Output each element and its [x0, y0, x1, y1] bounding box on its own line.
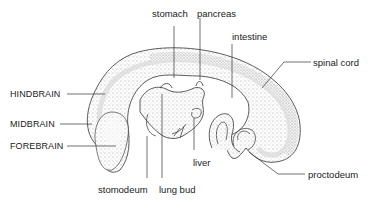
label-hindbrain: HINDBRAIN: [10, 89, 60, 100]
pancreas-shape: [196, 82, 203, 87]
label-stomach: stomach: [152, 8, 188, 19]
label-lung-bud: lung bud: [159, 184, 195, 195]
label-forebrain: FOREBRAIN: [10, 141, 63, 152]
label-liver: liver: [193, 157, 210, 168]
foregut-shape: [140, 87, 204, 138]
label-spinal-cord: spinal cord: [313, 57, 359, 68]
label-pancreas: pancreas: [197, 8, 236, 19]
label-intestine: intestine: [232, 31, 267, 42]
embryo-diagram: stomach pancreas intestine spinal cord H…: [0, 0, 374, 211]
label-midbrain: MIDBRAIN: [10, 119, 55, 130]
label-stomodeum: stomodeum: [98, 184, 148, 195]
label-proctodeum: proctodeum: [308, 169, 358, 180]
